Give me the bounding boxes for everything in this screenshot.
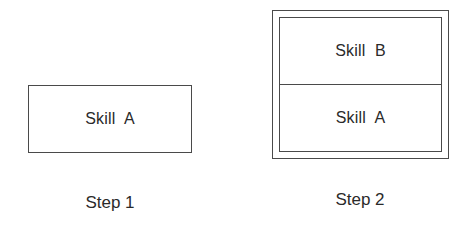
step1-skill-a-label: Skill A [29, 86, 191, 152]
step2-skill-a-label: Skill A [280, 85, 441, 150]
step1-caption: Step 1 [60, 193, 160, 213]
step2-caption: Step 2 [310, 190, 410, 210]
step2-skill-b-label: Skill B [280, 18, 441, 84]
step2-inner-stack: Skill B Skill A [279, 17, 442, 152]
step1-skill-a-box: Skill A [28, 85, 192, 153]
